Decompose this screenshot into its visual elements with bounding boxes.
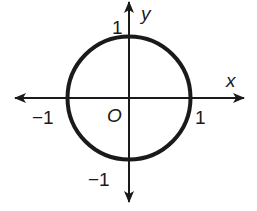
x-tick-positive-label: 1 — [195, 107, 206, 128]
x-axis-label: x — [225, 70, 237, 91]
x-tick-negative-label: −1 — [32, 107, 54, 128]
y-tick-positive-label: 1 — [112, 17, 123, 38]
y-axis-label: y — [139, 3, 152, 24]
unit-circle-diagram: y x O 1 −1 −1 1 — [0, 0, 257, 211]
origin-label: O — [107, 105, 122, 126]
y-tick-negative-label: −1 — [88, 169, 110, 190]
